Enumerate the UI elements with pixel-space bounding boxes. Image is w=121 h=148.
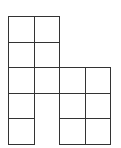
- grid-cell: [34, 42, 61, 69]
- grid-cell: [8, 118, 35, 145]
- grid-cell: [85, 118, 112, 145]
- grid-cell: [34, 16, 61, 43]
- grid-cell: [59, 67, 86, 94]
- grid-cell: [59, 93, 86, 120]
- grid-cell: [59, 118, 86, 145]
- grid-cell: [8, 16, 35, 43]
- grid-cell: [8, 67, 35, 94]
- grid-cell: [85, 93, 112, 120]
- grid-cell: [85, 67, 112, 94]
- grid-cell: [34, 67, 61, 94]
- grid-cell: [8, 42, 35, 69]
- grid-cell: [8, 93, 35, 120]
